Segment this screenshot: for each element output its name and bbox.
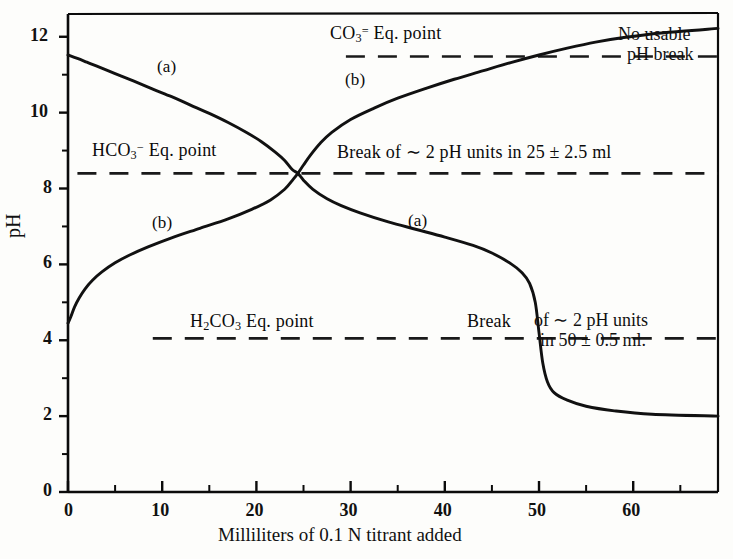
co3-eq-point-text: Eq. point <box>369 23 442 43</box>
h2co3-formula-h: H <box>190 311 203 331</box>
break-50ml-word: Break <box>467 311 511 332</box>
y-tick-label: 4 <box>43 328 52 349</box>
plot-frame-top <box>68 13 718 14</box>
hco3-formula-base: HCO <box>92 140 131 160</box>
no-usable-line-2: pH break <box>618 44 693 64</box>
curve-a <box>68 55 718 416</box>
hco3-eq-point-label: HCO3− Eq. point <box>92 140 217 163</box>
x-tick-label: 40 <box>434 500 452 521</box>
h2co3-formula-co: CO <box>210 311 235 331</box>
no-usable-line-1: No usable <box>618 24 693 44</box>
y-tick-label: 12 <box>30 25 48 46</box>
curve-label-b-upper: (b) <box>345 70 365 90</box>
x-tick-label: 60 <box>622 500 640 521</box>
x-tick-label: 10 <box>151 500 169 521</box>
titration-curve-figure: pH Milliliters of 0.1 N titrant added 01… <box>0 0 733 559</box>
co3-eq-point-label: CO3= Eq. point <box>330 23 441 46</box>
co3-formula-charge: = <box>362 24 369 38</box>
break-50ml-line-1: of ∼ 2 pH units <box>534 310 648 330</box>
axes-group <box>59 13 718 492</box>
y-tick-label: 2 <box>43 404 52 425</box>
break-50ml-line-2: in 50 ± 0.5 ml. <box>534 330 648 350</box>
h2co3-eq-point-label: H2CO3 Eq. point <box>190 311 314 334</box>
break-50ml-label: of ∼ 2 pH units in 50 ± 0.5 ml. <box>534 310 648 350</box>
x-tick-label: 30 <box>340 500 358 521</box>
no-usable-ph-break-label: No usable pH break <box>618 24 693 64</box>
x-tick-label: 20 <box>245 500 263 521</box>
plot-area <box>0 0 733 559</box>
hco3-formula-charge: − <box>137 141 144 155</box>
x-tick-label: 50 <box>528 500 546 521</box>
y-tick-label: 8 <box>43 177 52 198</box>
y-tick-label: 0 <box>43 480 52 501</box>
y-axis-title: pH <box>2 214 25 238</box>
curve-label-a-lower: (a) <box>408 211 427 231</box>
h2co3-eq-point-text: Eq. point <box>241 311 314 331</box>
x-axis-title: Milliliters of 0.1 N titrant added <box>218 524 462 546</box>
x-tick-label: 0 <box>64 500 73 521</box>
curve-label-a-upper: (a) <box>157 57 176 77</box>
hco3-eq-point-text: Eq. point <box>144 140 217 160</box>
y-tick-label: 10 <box>30 101 48 122</box>
co3-formula-base: CO <box>330 23 355 43</box>
y-tick-label: 6 <box>43 252 52 273</box>
break-25ml-label: Break of ∼ 2 pH units in 25 ± 2.5 ml <box>337 141 612 163</box>
curve-label-b-lower: (b) <box>152 213 172 233</box>
